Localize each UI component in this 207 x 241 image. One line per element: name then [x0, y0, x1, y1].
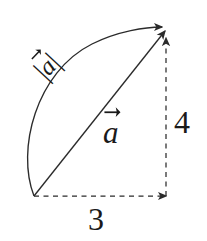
x-component-label: 3 — [88, 203, 104, 235]
y-component-label: 4 — [174, 106, 190, 138]
vector-label: a — [103, 117, 119, 148]
vector-arrow-line — [34, 31, 165, 196]
vector-symbol-box: a — [103, 117, 119, 148]
vector-magnitude-figure: a |a| 4 3 — [0, 0, 207, 241]
vector-symbol: a — [103, 115, 119, 150]
